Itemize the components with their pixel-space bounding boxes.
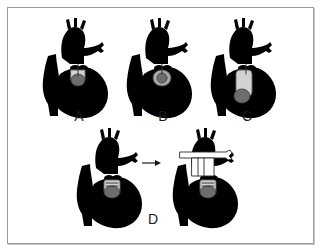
heart-illustration-a (43, 18, 108, 118)
panel-label-a: A (74, 109, 83, 123)
panel-label-b: B (158, 109, 167, 123)
heart-illustration-d-after (173, 128, 238, 228)
diagram-canvas (0, 0, 324, 252)
heart-illustration-d-before (77, 128, 142, 228)
heart-illustration-b (127, 18, 192, 118)
heart-illustration-c (211, 18, 276, 118)
arrow-icon (142, 160, 161, 166)
panel-label-c: C (242, 109, 252, 123)
panel-label-d: D (148, 212, 158, 226)
